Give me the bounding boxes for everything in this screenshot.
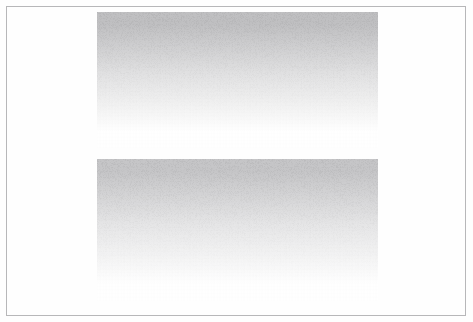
- lower-gradient-block: [97, 159, 378, 301]
- lower-gradient-fill: [97, 159, 378, 301]
- scanned-page: [0, 0, 473, 322]
- upper-gradient-fill: [97, 12, 378, 148]
- upper-gradient-block: [97, 12, 378, 148]
